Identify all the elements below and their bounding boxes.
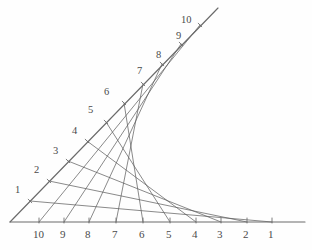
axis-label-bottom-9: 9 [60,229,66,240]
chord-4 [87,141,196,222]
axis-label-diagonal-3: 3 [53,146,58,157]
axis-label-diagonal-6: 6 [104,87,109,98]
axis-label-bottom-4: 4 [192,229,198,240]
axis-label-diagonal-4: 4 [72,126,77,137]
axis-label-bottom-6: 6 [139,229,145,240]
axis-label-bottom-10: 10 [33,229,44,240]
chord-lines-group [30,25,272,222]
chord-5 [106,122,170,222]
chord-8 [89,64,162,222]
axis-label-diagonal-8: 8 [156,50,161,61]
axis-label-bottom-3: 3 [217,229,223,240]
axis-label-diagonal-1: 1 [15,185,20,196]
axis-lines-group [10,8,305,222]
figure-canvas: 1098765432112345678910 [0,0,312,250]
chord-10 [39,25,200,222]
envelope-diagram [0,0,312,250]
axis-label-bottom-8: 8 [85,229,91,240]
axis-label-diagonal-10: 10 [181,15,192,26]
axis-label-diagonal-9: 9 [176,31,181,42]
axis-label-bottom-7: 7 [112,229,118,240]
axis-label-diagonal-7: 7 [137,66,142,77]
chord-6 [124,103,143,222]
axis-label-bottom-2: 2 [243,229,249,240]
axis-label-bottom-1: 1 [268,229,274,240]
axis-label-diagonal-5: 5 [88,105,93,116]
chord-7 [116,84,143,222]
axis-label-diagonal-2: 2 [34,165,39,176]
axis-label-bottom-5: 5 [166,229,172,240]
diagonal-axis [10,8,218,222]
chord-9 [64,44,181,222]
chord-3 [68,161,221,222]
tick-marks-group [28,23,272,223]
